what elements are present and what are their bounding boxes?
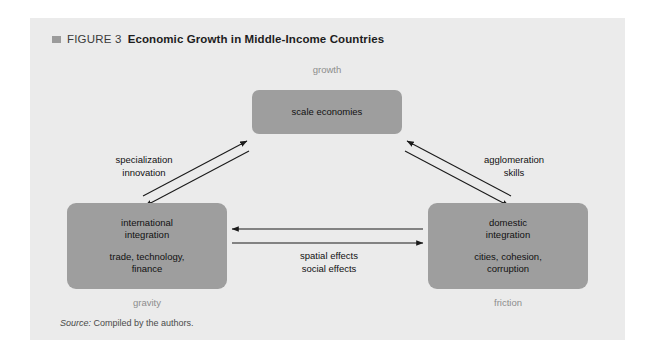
figure-caption: FIGURE 3 Economic Growth in Middle-Incom… xyxy=(52,33,384,45)
node-domestic-integration-detail: cities, cohesion, corruption xyxy=(474,251,542,275)
edge-label-spatial-social-effects: spatial effects social effects xyxy=(277,250,381,275)
node-domestic-integration-detail-line1: cities, cohesion, xyxy=(474,251,542,262)
square-marker-icon xyxy=(52,36,61,43)
node-domestic-integration-title-line1: domestic xyxy=(489,217,527,228)
node-international-integration[interactable]: international integration trade, technol… xyxy=(67,203,227,289)
node-international-integration-title-line1: international xyxy=(121,217,173,228)
node-domestic-integration-detail-line2: corruption xyxy=(487,263,529,274)
edge-label-left-line1: specialization xyxy=(115,154,172,165)
corner-label-friction: friction xyxy=(428,297,588,308)
node-international-integration-title: international integration xyxy=(121,217,173,241)
source-text: Compiled by the authors. xyxy=(94,318,194,328)
source-note: Source: Compiled by the authors. xyxy=(60,318,194,328)
edge-label-specialization-innovation: specialization innovation xyxy=(96,154,192,179)
edge-label-bottom-line2: social effects xyxy=(302,263,357,274)
node-domestic-integration[interactable]: domestic integration cities, cohesion, c… xyxy=(428,203,588,289)
edge-label-right-line1: agglomeration xyxy=(484,154,544,165)
node-domestic-integration-title: domestic integration xyxy=(486,217,530,241)
figure-title: Economic Growth in Middle-Income Countri… xyxy=(128,33,385,45)
edge-label-agglomeration-skills: agglomeration skills xyxy=(462,154,566,179)
node-scale-economies-label: scale economies xyxy=(292,106,363,118)
source-label: Source: xyxy=(60,318,91,328)
node-domestic-integration-title-line2: integration xyxy=(486,229,530,240)
edge-label-right-line2: skills xyxy=(504,167,525,178)
node-international-integration-title-line2: integration xyxy=(125,229,169,240)
node-international-integration-detail-line1: trade, technology, xyxy=(110,251,185,262)
node-scale-economies[interactable]: scale economies xyxy=(252,90,402,134)
edge-label-bottom-line1: spatial effects xyxy=(300,250,358,261)
edge-label-left-line2: innovation xyxy=(122,167,165,178)
node-international-integration-detail-line2: finance xyxy=(132,263,163,274)
node-international-integration-detail: trade, technology, finance xyxy=(110,251,185,275)
figure-number: FIGURE 3 xyxy=(67,33,122,45)
corner-label-gravity: gravity xyxy=(67,297,227,308)
corner-label-growth: growth xyxy=(252,64,402,75)
figure-container: FIGURE 3 Economic Growth in Middle-Incom… xyxy=(0,0,653,359)
